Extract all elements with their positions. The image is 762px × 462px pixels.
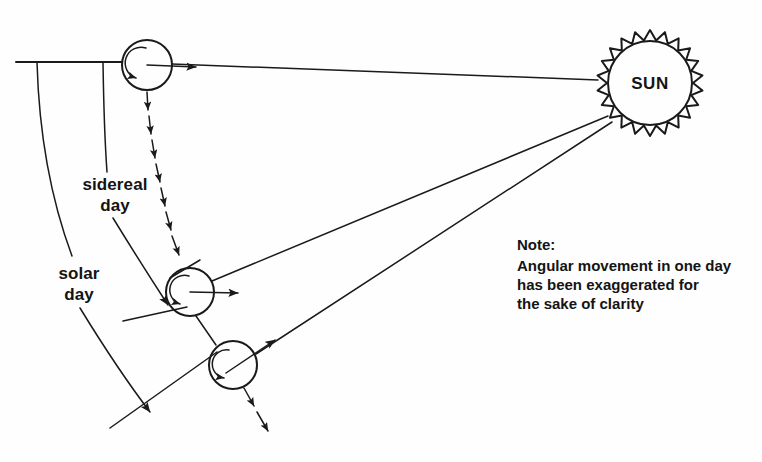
orbit-chord-bottom-earth: [110, 352, 217, 428]
sun-symbol: SUN: [598, 30, 703, 136]
sidereal-day-label-line1: sidereal: [82, 175, 147, 194]
solar-day-reference-drop-line: [37, 62, 72, 256]
note-block: Note: Angular movement in one day has be…: [517, 236, 732, 312]
earth-connector-middle-to-bottom: [196, 316, 216, 345]
orbital-travel-dashed-path-upper: [147, 92, 179, 255]
meridian-tick-middle-earth: [123, 307, 187, 321]
earth-bottom: [209, 340, 275, 389]
solar-day-label-line1: solar: [58, 264, 99, 283]
diagram-svg: SUN sidereal day solar day Note: Angular…: [0, 0, 762, 462]
sun-label: SUN: [631, 74, 669, 93]
note-title: Note:: [517, 236, 555, 253]
sightline-bottom-earth-to-sun: [256, 122, 612, 354]
note-line-1: Angular movement in one day: [517, 257, 732, 274]
sidereal-day-arc-arrow: [113, 218, 168, 305]
sidereal-day-label-line2: day: [100, 196, 130, 215]
solar-day-arc-arrow: [80, 308, 150, 412]
sidereal-day-label: sidereal day: [82, 175, 147, 215]
sightline-top-earth-to-sun: [172, 64, 598, 80]
orbital-travel-dashed-path-lower: [244, 388, 268, 431]
note-line-3: the sake of clarity: [517, 295, 644, 312]
note-line-2: has been exaggerated for: [517, 276, 699, 293]
diagram-canvas: SUN sidereal day solar day Note: Angular…: [0, 0, 762, 462]
sidereal-day-reference-drop-line: [103, 62, 107, 172]
solar-day-label-line2: day: [64, 285, 94, 304]
solar-day-label: solar day: [58, 264, 99, 304]
